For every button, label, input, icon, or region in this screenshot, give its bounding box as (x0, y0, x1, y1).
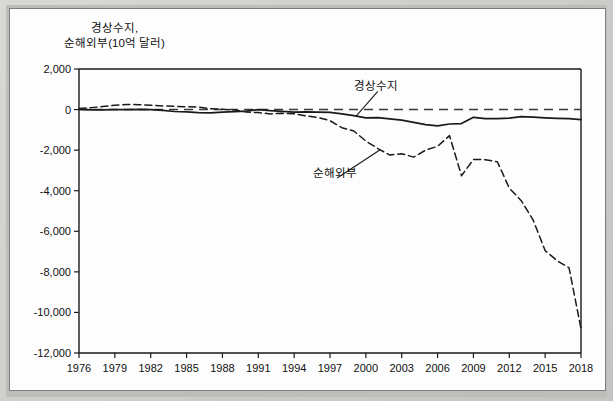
y-tick-label: -4,000 (15, 185, 71, 197)
series-line-net-foreign (79, 104, 581, 328)
figure-root: 경상수지, 순해외부(10억 달러) 2,0000-2,000-4,000-6,… (0, 0, 613, 401)
y-tick-label: -2,000 (15, 144, 71, 156)
chart-card: 경상수지, 순해외부(10억 달러) 2,0000-2,000-4,000-6,… (9, 8, 606, 391)
y-tick-label: -12,000 (15, 347, 71, 359)
series-annotation-label: 순해외부 (313, 164, 357, 180)
x-tick-label: 2018 (558, 362, 604, 374)
y-tick-label: -6,000 (15, 225, 71, 237)
y-tick-label: -8,000 (15, 266, 71, 278)
y-tick-label: -10,000 (15, 306, 71, 318)
series-line-current-account (79, 109, 581, 125)
series-annotation-label: 경상수지 (354, 77, 398, 93)
chart-svg (10, 9, 605, 390)
annotation-leader-line (356, 91, 378, 115)
y-tick-label: 2,000 (15, 63, 71, 75)
plot-area: 2,0000-2,000-4,000-6,000-8,000-10,000-12… (10, 9, 605, 390)
y-tick-label: 0 (15, 104, 71, 116)
